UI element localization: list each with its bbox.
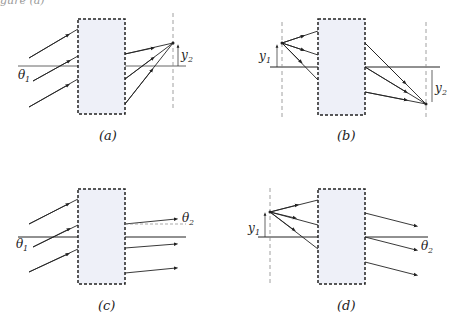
- optics-diagram: y 2 θ 1 (a) y 1 y 2 (b): [0, 0, 462, 329]
- svg-text:1: 1: [23, 244, 28, 253]
- optical-system-box: [78, 189, 125, 284]
- caption-a: (a): [99, 128, 117, 143]
- y1-label: y: [247, 221, 255, 235]
- panel-b: y 1 y 2 (b): [258, 19, 447, 143]
- panel-d: y 1 θ 2 (d): [247, 188, 433, 313]
- optical-system-box: [318, 19, 365, 115]
- svg-text:2: 2: [187, 55, 193, 64]
- svg-text:1: 1: [25, 75, 30, 84]
- optical-system-box: [318, 189, 365, 284]
- optical-system-box: [78, 19, 125, 114]
- y1-label: y: [258, 49, 266, 63]
- y2-label: y: [434, 81, 442, 95]
- panel-a: y 2 θ 1 (a): [18, 13, 193, 143]
- svg-text:2: 2: [441, 88, 447, 97]
- panel-c: θ 2 θ 1 (c): [16, 189, 194, 313]
- caption-c: (c): [98, 298, 115, 313]
- caption-b: (b): [337, 128, 355, 143]
- svg-text:2: 2: [188, 218, 194, 227]
- svg-text:1: 1: [255, 228, 260, 237]
- svg-text:1: 1: [266, 56, 271, 65]
- y2-label: y: [180, 48, 188, 62]
- caption-d: (d): [337, 298, 355, 313]
- svg-text:2: 2: [427, 246, 433, 255]
